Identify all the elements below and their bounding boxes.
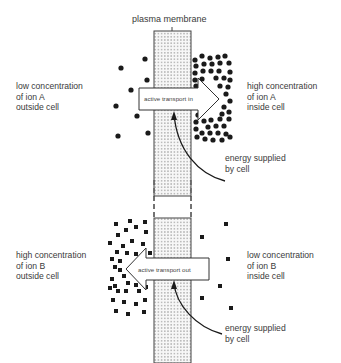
active-transport-out-label: active transport out <box>138 266 191 273</box>
plasma-membrane-bottom <box>154 218 191 363</box>
active-transport-in-label: active transport in <box>144 95 193 102</box>
bottom-left-label: high concentration of ion B outside cell <box>16 250 86 282</box>
top-left-label: low concentration of ion A outside cell <box>16 81 83 113</box>
bottom-energy-label: energy supplied by cell <box>225 323 286 344</box>
bottom-right-label: low concentration of ion B inside cell <box>247 250 314 282</box>
plasma-membrane-top <box>154 27 191 196</box>
membrane-diagram <box>0 0 341 363</box>
plasma-membrane-label: plasma membrane <box>132 14 207 25</box>
top-energy-label: energy supplied by cell <box>225 153 286 174</box>
top-right-label: high concentration of ion A inside cell <box>247 81 317 113</box>
